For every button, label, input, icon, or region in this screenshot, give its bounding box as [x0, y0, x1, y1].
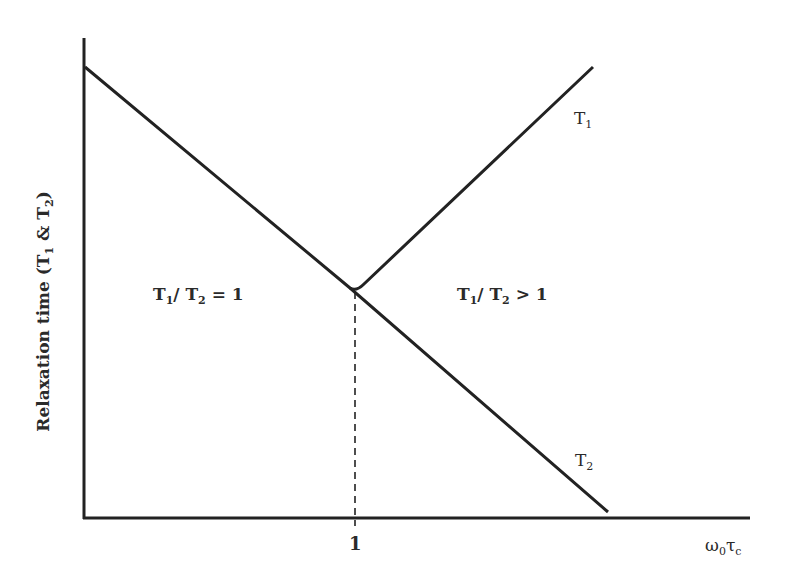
t1-curve-label: T1 — [574, 110, 592, 130]
x-axis-label: ω0τc — [705, 537, 741, 557]
x-tick-label: 1 — [349, 535, 362, 553]
relaxation-time-diagram — [0, 0, 790, 582]
y-axis-label: Relaxation time (T1 & T2) — [33, 142, 56, 482]
region-right-label: T1/ T2 > 1 — [457, 286, 548, 306]
t1-curve — [350, 67, 593, 289]
region-left-label: T1/ T2 = 1 — [153, 286, 244, 306]
t2-curve-label: T2 — [575, 452, 593, 472]
